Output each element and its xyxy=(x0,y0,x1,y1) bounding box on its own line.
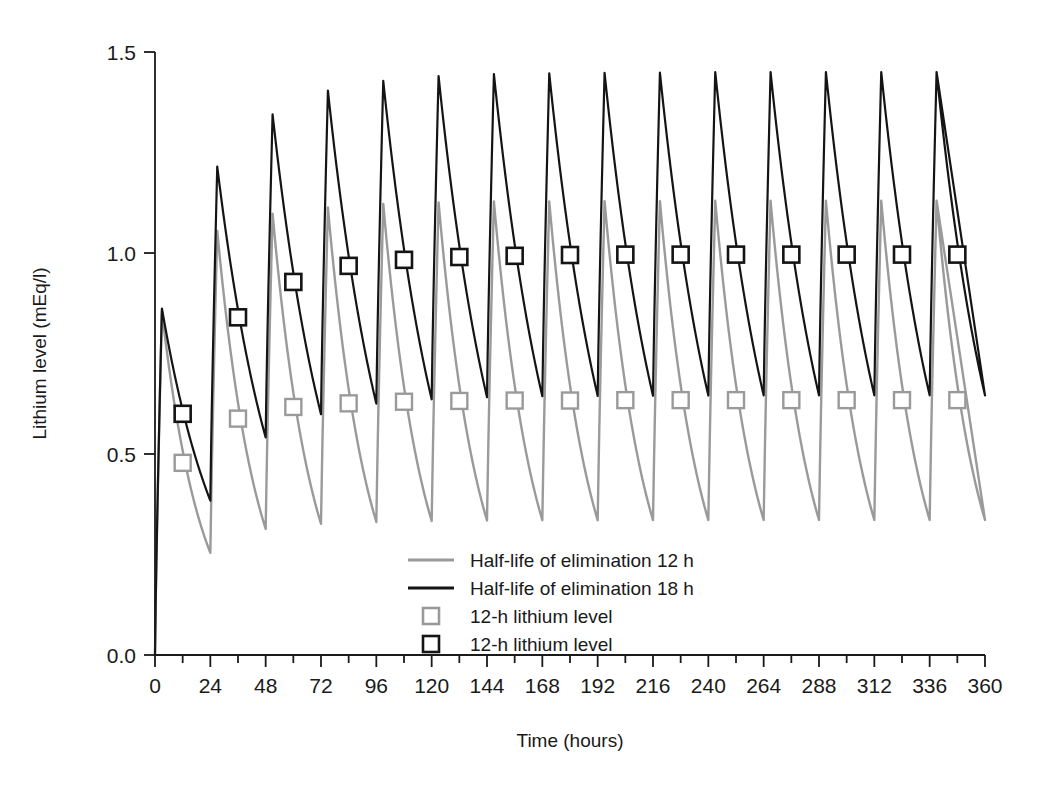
legend-marker-swatch xyxy=(423,636,439,652)
x-axis-tick-label: 192 xyxy=(580,674,615,697)
data-point-marker xyxy=(230,309,246,325)
data-point-marker xyxy=(507,393,523,409)
y-axis-tick-label: 1.5 xyxy=(107,41,136,64)
x-axis-tick-label: 144 xyxy=(469,674,504,697)
data-point-marker xyxy=(285,399,301,415)
legend-marker-swatch xyxy=(423,608,439,624)
legend-entry-label: 12-h lithium level xyxy=(470,606,613,627)
data-point-marker xyxy=(175,406,191,422)
data-point-marker xyxy=(728,392,744,408)
markers-layer xyxy=(175,247,966,471)
chart-legend: Half-life of elimination 12 hHalf-life o… xyxy=(408,550,694,655)
legend-entry-label: Half-life of elimination 12 h xyxy=(470,550,694,571)
legend-entry-label: 12-h lithium level xyxy=(470,634,613,655)
data-point-marker xyxy=(507,248,523,264)
y-axis-title: Lithium level (mEq/l) xyxy=(29,267,50,439)
x-axis-tick-label: 72 xyxy=(309,674,332,697)
data-point-marker xyxy=(617,392,633,408)
data-point-marker xyxy=(341,395,357,411)
data-point-marker xyxy=(894,392,910,408)
x-axis-tick-label: 336 xyxy=(912,674,947,697)
x-axis-tick-label: 288 xyxy=(801,674,836,697)
data-point-marker xyxy=(562,247,578,263)
data-point-marker xyxy=(839,247,855,263)
lithium-level-line-chart: 0.00.51.01.50244872961201441681922162402… xyxy=(0,0,1052,791)
data-point-marker xyxy=(949,392,965,408)
data-point-marker xyxy=(341,258,357,274)
data-point-marker xyxy=(728,247,744,263)
x-axis-tick-label: 312 xyxy=(857,674,892,697)
y-axis-tick-label: 1.0 xyxy=(107,242,136,265)
data-point-marker xyxy=(230,411,246,427)
x-axis-tick-label: 96 xyxy=(365,674,388,697)
x-axis-tick-label: 216 xyxy=(635,674,670,697)
x-axis-tick-label: 0 xyxy=(149,674,161,697)
data-point-marker xyxy=(396,394,412,410)
x-axis-tick-label: 120 xyxy=(414,674,449,697)
x-axis-tick-label: 168 xyxy=(525,674,560,697)
data-point-marker xyxy=(673,392,689,408)
y-axis-tick-label: 0.0 xyxy=(107,644,136,667)
data-point-marker xyxy=(617,247,633,263)
x-axis-tick-label: 48 xyxy=(254,674,277,697)
data-point-marker xyxy=(894,247,910,263)
y-axis-tick-label: 0.5 xyxy=(107,443,136,466)
x-axis-tick-label: 24 xyxy=(199,674,223,697)
x-axis-tick-label: 240 xyxy=(691,674,726,697)
data-point-marker xyxy=(175,455,191,471)
data-point-marker xyxy=(285,274,301,290)
data-point-marker xyxy=(451,393,467,409)
data-point-marker xyxy=(562,393,578,409)
x-axis-tick-label: 264 xyxy=(746,674,781,697)
data-point-marker xyxy=(839,392,855,408)
chart-figure: 0.00.51.01.50244872961201441681922162402… xyxy=(0,0,1052,791)
data-point-marker xyxy=(783,392,799,408)
x-axis-tick-label: 360 xyxy=(967,674,1002,697)
data-point-marker xyxy=(451,249,467,265)
data-point-marker xyxy=(396,252,412,268)
data-point-marker xyxy=(783,247,799,263)
legend-entry-label: Half-life of elimination 18 h xyxy=(470,578,694,599)
data-point-marker xyxy=(949,247,965,263)
x-axis-title: Time (hours) xyxy=(517,730,624,751)
data-point-marker xyxy=(673,247,689,263)
